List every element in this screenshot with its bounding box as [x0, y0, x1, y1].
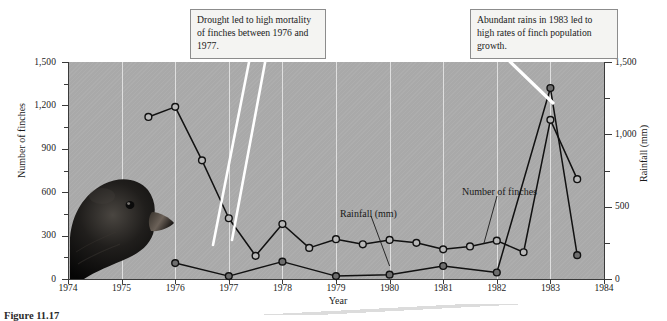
data-point: [386, 271, 393, 278]
data-point: [306, 245, 313, 252]
annotation-leader-line: [232, 52, 267, 240]
data-point: [413, 239, 420, 246]
page-rule: [84, 304, 667, 315]
data-point: [440, 263, 447, 270]
data-point: [199, 157, 206, 164]
data-point: [520, 249, 527, 256]
series-line-finches: [148, 107, 577, 256]
data-point: [574, 252, 581, 259]
data-point: [172, 103, 179, 110]
data-point: [440, 246, 447, 253]
series-label-rainfall: Rainfall (mm): [340, 208, 397, 219]
data-point: [145, 114, 152, 121]
data-point: [574, 176, 581, 183]
annotation-rains: Abundant rains in 1983 led to high rates…: [470, 9, 618, 59]
data-point: [359, 241, 366, 248]
data-point: [252, 252, 259, 259]
data-point: [172, 260, 179, 267]
data-point: [493, 269, 500, 276]
figure-caption: Figure 11.17: [4, 310, 59, 321]
series-line-rainfall: [175, 88, 577, 276]
series-label-leader-line: [484, 196, 497, 243]
data-point: [467, 243, 474, 250]
data-point: [225, 215, 232, 222]
figure-root: 0 300 600 900 1,200 1,500 0 500 1,000 1,…: [0, 0, 667, 321]
data-point: [279, 258, 286, 265]
data-point: [225, 273, 232, 280]
annotation-leader-line: [500, 52, 553, 103]
data-point: [333, 236, 340, 243]
series-label-finches: Number of finches: [462, 186, 537, 197]
data-point: [386, 237, 393, 244]
data-point: [279, 221, 286, 228]
data-point: [493, 237, 500, 244]
annotation-drought: Drought led to high mortality of finches…: [190, 9, 326, 59]
data-point: [547, 116, 554, 123]
data-point: [333, 273, 340, 280]
data-point: [547, 85, 554, 92]
